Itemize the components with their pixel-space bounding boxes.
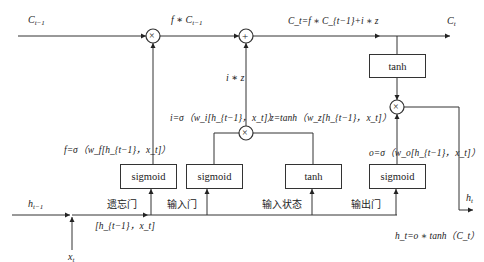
h-t-equation: h_t=o ∗ tanh（C_t） [395,232,480,242]
c-prev-label: Ct−1 [28,15,45,27]
h-prev-label: ht−1 [28,199,43,211]
output-gate-equation: o=σ（w_o[h_{t−1}，x_t]） [369,149,481,159]
forget-gate-equation: f=σ（w_f[h_{t−1}，x_t]） [64,146,171,156]
input-multiply-icon: × [242,128,248,138]
state-tanh-box: tanh [285,164,342,189]
input-sigmoid-box: sigmoid [186,164,243,189]
i-times-z-label: i ∗ z [226,73,244,83]
input-gate-label: 输入门 [167,200,197,210]
output-multiply-icon: × [393,102,399,112]
output-sigmoid-box: sigmoid [369,164,426,189]
forget-gate-label: 遗忘门 [107,200,137,210]
input-state-label: 输入状态 [262,200,302,210]
f-times-c-label: f ∗ Ct−1 [171,15,202,27]
forget-multiply-icon: × [149,31,155,41]
c-t-output-label: Ct [447,16,456,28]
output-gate-label: 输出门 [351,200,381,210]
state-equation: z=tanh（w_z[h_{t−1}，x_t]） [270,114,392,124]
concat-label: [h_{t−1}，x_t] [95,222,155,232]
x-t-label: xt [68,252,74,262]
c-t-equation: C_t=f ∗ C_{t−1}+i ∗ z [288,17,378,27]
input-gate-equation: i=σ（w_i[h_{t−1}，x_t]） [170,114,277,124]
cell-add-icon: + [242,31,248,42]
h-t-output-label: ht [466,193,473,205]
cell-tanh-box: tanh [369,54,426,78]
forget-sigmoid-box: sigmoid [120,164,177,189]
